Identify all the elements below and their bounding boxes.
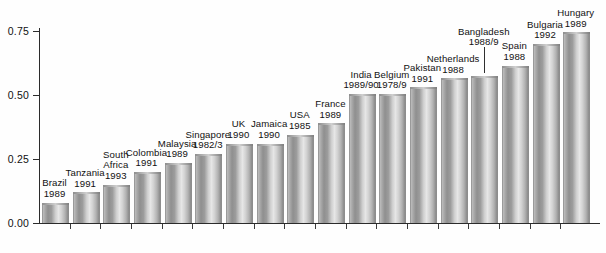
bar-label-year: 1993	[71, 171, 161, 182]
bar-label-year: 1982/3	[163, 140, 253, 151]
bar-label: France1989	[285, 99, 375, 120]
bar-label-year: 1989	[10, 189, 100, 200]
bar-label-year: 1989	[285, 110, 375, 121]
bar-label-country: France	[285, 99, 375, 110]
bar-label-year: 1988	[469, 52, 559, 63]
bar-label: Spain1988	[469, 41, 559, 62]
bar-label-year: 1989	[531, 19, 606, 30]
bar-chart: 0.000.250.500.75 Brazil1989Tanzania1991S…	[0, 0, 606, 253]
bar-label-year: 1992	[500, 30, 590, 41]
bar-labels-layer: Brazil1989Tanzania1991SouthAfrica1993Col…	[0, 0, 606, 253]
bar-label-year: 1985	[255, 121, 345, 132]
bar-label: Hungary1989	[531, 8, 606, 29]
